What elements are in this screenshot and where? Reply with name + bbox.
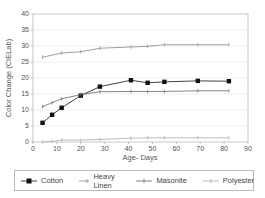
data-point (145, 81, 149, 85)
series-masonite (43, 89, 229, 109)
x-tick-label: 90 (244, 145, 252, 152)
legend-item-heavy-linen: Heavy Linen (79, 172, 120, 190)
series-polyester (43, 136, 229, 144)
plus-marker-icon (136, 178, 152, 184)
data-point (98, 84, 102, 88)
y-tick-label: 5 (25, 122, 29, 129)
y-tick-label: 35 (21, 26, 29, 33)
data-point (196, 79, 200, 83)
y-tick-label: 30 (21, 42, 29, 49)
x-tick-label: 40 (125, 145, 133, 152)
legend-item-masonite: Masonite (136, 176, 186, 185)
x-tick-label: 60 (172, 145, 180, 152)
x-tick-label: 20 (77, 145, 85, 152)
legend-item-cotton: Cotton (21, 176, 63, 185)
series-cotton (40, 78, 231, 125)
y-tick-label: 20 (21, 74, 29, 81)
x-axis-ticks: 0102030405060708090 (31, 142, 252, 152)
legend-label: Masonite (156, 176, 186, 185)
data-point (162, 80, 166, 84)
series-heavy-linen (43, 43, 229, 59)
data-point (59, 106, 63, 110)
legend: Cotton Heavy Linen Masonite Polyester (14, 170, 254, 191)
x-tick-label: 70 (196, 145, 204, 152)
x-tick-label: 80 (220, 145, 228, 152)
x-tick-label: 50 (149, 145, 157, 152)
y-tick-label: 40 (21, 10, 29, 17)
legend-item-polyester: Polyester (203, 176, 254, 185)
x-tick-label: 10 (53, 145, 61, 152)
y-tick-label: 15 (21, 90, 29, 97)
data-series (40, 43, 231, 144)
data-point (40, 121, 44, 125)
y-axis-label: Color Change (CIELab) (4, 38, 13, 117)
y-axis-ticks: 0510152025303540 (21, 10, 33, 145)
legend-label: Polyester (223, 176, 254, 185)
legend-label: Cotton (41, 176, 63, 185)
x-tick-label: 0 (31, 145, 35, 152)
data-point (50, 113, 54, 117)
x-tick-label: 30 (101, 145, 109, 152)
y-tick-label: 0 (25, 138, 29, 145)
plus-marker-icon (203, 178, 219, 184)
x-axis-label: Age- Days (122, 153, 157, 162)
y-tick-label: 10 (21, 106, 29, 113)
data-point (129, 78, 133, 82)
line-chart: 0510152025303540 0102030405060708090 Col… (0, 0, 265, 198)
data-point (227, 79, 231, 83)
plus-marker-icon (79, 178, 89, 184)
square-marker-icon (21, 178, 37, 184)
y-tick-label: 25 (21, 58, 29, 65)
legend-label: Heavy Linen (93, 172, 120, 190)
